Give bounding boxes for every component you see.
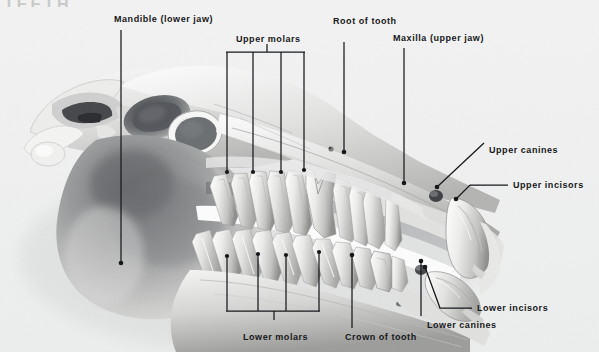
label-crown-of-tooth: Crown of tooth bbox=[345, 332, 417, 343]
label-lower-incisors: Lower incisors bbox=[477, 303, 548, 314]
label-upper-canines: Upper canines bbox=[489, 145, 558, 156]
bracket-upper-molars bbox=[225, 44, 306, 174]
label-root-of-tooth: Root of tooth bbox=[333, 16, 397, 27]
label-upper-incisors: Upper incisors bbox=[513, 180, 584, 191]
annotation-overlay bbox=[0, 0, 599, 352]
leader-upper-canines bbox=[437, 143, 484, 187]
leader-upper-incisors bbox=[456, 185, 508, 199]
label-mandible: Mandible (lower jaw) bbox=[114, 14, 213, 25]
bracket-lower-molars bbox=[225, 250, 321, 320]
label-lower-molars: Lower molars bbox=[243, 332, 308, 343]
figure-stage: TEETH bbox=[0, 0, 599, 352]
label-upper-molars: Upper molars bbox=[236, 34, 301, 45]
label-lower-canines: Lower canines bbox=[427, 320, 497, 331]
leader-lower-incisors bbox=[425, 267, 472, 308]
label-maxilla: Maxilla (upper jaw) bbox=[393, 33, 484, 44]
